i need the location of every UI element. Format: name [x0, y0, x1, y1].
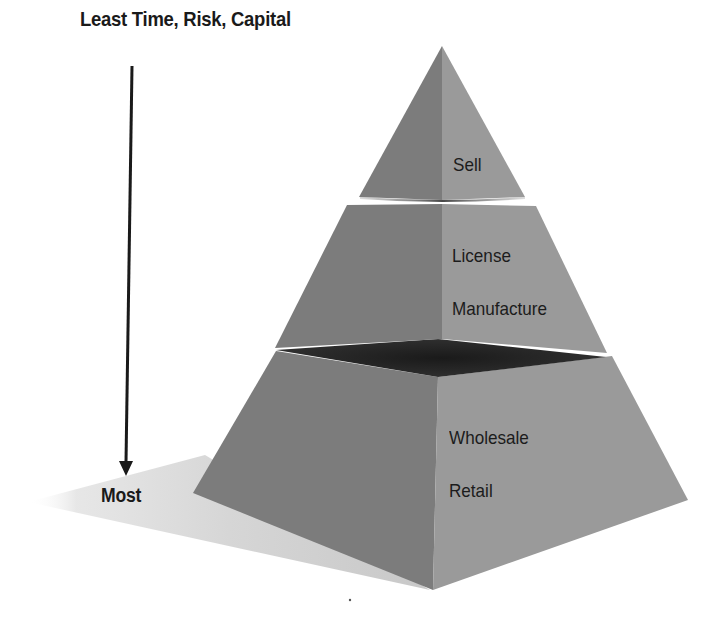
- tier-top: [359, 46, 525, 202]
- arrow-head-icon: [119, 461, 133, 476]
- tier-middle-left-face: [275, 204, 442, 348]
- axis-top-label: Least Time, Risk, Capital: [80, 7, 291, 31]
- tier-label-wholesale: Wholesale: [449, 427, 529, 449]
- tier-label-manufacture: Manufacture: [452, 298, 547, 320]
- tier-top-left-face: [359, 46, 442, 200]
- tier-middle-right-face: [442, 204, 607, 353]
- pyramid-diagram: Least Time, Risk, Capital Most Sell Lice…: [0, 0, 723, 627]
- tier-bottom-right-face: [433, 356, 688, 590]
- pyramid-graphic: [0, 0, 723, 627]
- tier-top-right-face: [442, 46, 525, 200]
- axis-bottom-label: Most: [101, 484, 141, 507]
- tier-label-sell: Sell: [453, 154, 482, 176]
- speck: [349, 599, 351, 601]
- tier-label-license: License: [452, 245, 511, 267]
- tier-label-retail: Retail: [449, 480, 493, 502]
- axis-arrow: [119, 66, 133, 476]
- tier-middle: [275, 204, 607, 353]
